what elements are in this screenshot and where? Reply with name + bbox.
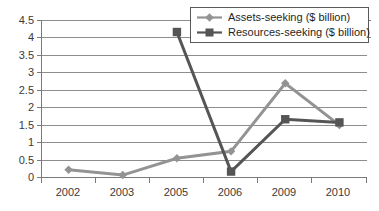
line-chart: 4.5 4 3.5 3 2.5 2 1.5 1 0.5 0 2002 2003 …	[0, 0, 379, 211]
data-point-square	[173, 28, 181, 36]
x-tick-label: 2003	[110, 186, 134, 198]
x-tick-label: 2010	[326, 186, 350, 198]
legend-label-assets: Assets-seeking ($ billion)	[228, 11, 350, 23]
y-axis-labels: 4.5 4 3.5 3 2.5 2 1.5 1 0.5 0	[19, 14, 34, 183]
y-tick-label: 4.5	[19, 14, 34, 26]
y-tick-label: 2	[28, 101, 34, 113]
y-tick-label: 2.5	[19, 84, 34, 96]
y-tick-label: 3.5	[19, 49, 34, 61]
x-tick-label: 2005	[164, 186, 188, 198]
y-tick-label: 0.5	[19, 154, 34, 166]
data-point-square	[335, 118, 343, 126]
y-tick-label: 4	[28, 31, 34, 43]
legend-label-resources: Resources-seeking ($ billion)	[228, 26, 370, 38]
x-tick-label: 2006	[218, 186, 242, 198]
data-point-square	[227, 167, 235, 175]
legend[interactable]: Assets-seeking ($ billion) Resources-see…	[191, 8, 370, 43]
chart-canvas: 4.5 4 3.5 3 2.5 2 1.5 1 0.5 0 2002 2003 …	[0, 0, 379, 211]
y-tick-label: 0	[28, 171, 34, 183]
y-tick-label: 1.5	[19, 119, 34, 131]
y-tick-label: 1	[28, 136, 34, 148]
x-tick-label: 2002	[56, 186, 80, 198]
x-axis-labels: 2002 2003 2005 2006 2009 2010	[56, 186, 350, 198]
square-marker-icon	[206, 29, 214, 37]
data-point-square	[281, 115, 289, 123]
x-tick-label: 2009	[272, 186, 296, 198]
y-tick-label: 3	[28, 66, 34, 78]
y-tick-marks	[37, 21, 41, 178]
